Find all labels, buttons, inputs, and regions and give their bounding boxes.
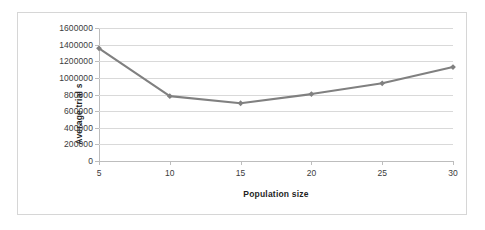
chart-figure: Average trial s 020000040000060000080000… [17, 12, 467, 215]
y-tick-label: 1400000 [59, 40, 93, 50]
y-tick-label: 1000000 [59, 73, 93, 83]
y-tick-label: 400000 [64, 123, 93, 133]
data-series-line [99, 28, 453, 161]
y-tick-label: 800000 [64, 90, 93, 100]
x-tick-label: 15 [236, 168, 245, 178]
x-tick-label: 30 [448, 168, 457, 178]
y-tick-label: 200000 [64, 139, 93, 149]
x-tick-label: 5 [97, 168, 102, 178]
x-tick-mark [311, 161, 312, 165]
y-tick-label: 1600000 [59, 23, 93, 33]
y-tick-label: 1200000 [59, 56, 93, 66]
x-tick-mark [170, 161, 171, 165]
x-tick-label: 10 [165, 168, 174, 178]
data-point-marker [379, 80, 385, 86]
x-axis-title: Population size [99, 189, 453, 199]
x-tick-mark [453, 161, 454, 165]
x-tick-label: 20 [307, 168, 316, 178]
x-tick-mark [241, 161, 242, 165]
data-point-marker [450, 64, 456, 70]
x-tick-label: 25 [377, 168, 386, 178]
data-point-marker [238, 100, 244, 106]
y-tick-label: 0 [88, 156, 93, 166]
data-point-marker [309, 91, 315, 97]
y-tick-label: 600000 [64, 106, 93, 116]
gridline [99, 161, 453, 162]
x-tick-mark [382, 161, 383, 165]
plot-area: 0200000400000600000800000100000012000001… [99, 28, 453, 161]
x-tick-mark [99, 161, 100, 165]
series-polyline [99, 48, 453, 103]
